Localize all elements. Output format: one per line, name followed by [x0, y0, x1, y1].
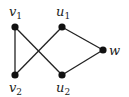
edge-u1-w — [62, 27, 103, 50]
edges — [15, 27, 103, 75]
nodes — [11, 23, 106, 78]
label-v1: v1 — [9, 4, 22, 21]
node-v1 — [11, 23, 18, 30]
graph-diagram: v1u1wv2u2 — [0, 0, 129, 97]
node-w — [99, 46, 106, 53]
node-v2 — [11, 71, 18, 78]
label-v2: v2 — [9, 80, 22, 97]
label-u1: u1 — [56, 4, 70, 21]
label-w: w — [109, 43, 120, 58]
node-u2 — [58, 71, 65, 78]
edge-u2-w — [62, 50, 103, 75]
node-u1 — [58, 23, 65, 30]
label-u2: u2 — [56, 80, 70, 97]
